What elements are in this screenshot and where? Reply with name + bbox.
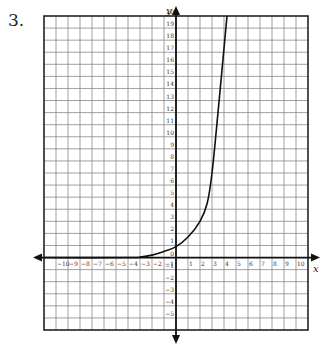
y-axis-down-arrow-icon bbox=[172, 335, 180, 344]
x-tick-label: −6 bbox=[105, 260, 114, 267]
x-tick-label: −2 bbox=[153, 260, 162, 267]
y-axis-label: y bbox=[165, 5, 172, 16]
y-tick-label: 9 bbox=[170, 141, 174, 148]
y-tick-label: −4 bbox=[165, 298, 174, 305]
y-tick-label: 4 bbox=[170, 201, 174, 208]
y-tick-label: 0 bbox=[170, 250, 174, 257]
y-tick-label: 14 bbox=[166, 80, 174, 87]
x-tick-label: −10 bbox=[57, 260, 70, 267]
x-tick-label: 2 bbox=[201, 260, 205, 267]
y-tick-label: 10 bbox=[166, 129, 174, 136]
x-tick-label: 9 bbox=[285, 260, 289, 267]
y-tick-label: 8 bbox=[170, 153, 174, 160]
x-tick-label: −5 bbox=[117, 260, 126, 267]
y-tick-label: −2 bbox=[165, 274, 174, 281]
x-tick-label: 10 bbox=[297, 260, 305, 267]
y-tick-label: 1 bbox=[170, 237, 174, 244]
y-tick-label: −5 bbox=[165, 310, 174, 317]
y-tick-label: −1 bbox=[165, 262, 174, 269]
x-tick-label: 3 bbox=[213, 260, 217, 267]
x-tick-label: −8 bbox=[81, 260, 90, 267]
x-axis-label: x bbox=[313, 263, 319, 274]
y-tick-label: 19 bbox=[166, 20, 174, 27]
y-tick-label: 18 bbox=[166, 32, 174, 39]
x-tick-label: 5 bbox=[237, 260, 241, 267]
x-tick-label: 8 bbox=[273, 260, 277, 267]
y-tick-label: 15 bbox=[166, 68, 174, 75]
y-tick-label: 13 bbox=[166, 93, 174, 100]
x-axis-right-arrow-icon bbox=[311, 254, 320, 262]
x-tick-label: 7 bbox=[261, 260, 265, 267]
x-tick-label: 4 bbox=[225, 260, 229, 267]
x-tick-label: −9 bbox=[69, 260, 78, 267]
tick-labels: −10−9−8−7−6−5−4−3−2−112345678910−5−4−3−2… bbox=[57, 8, 305, 317]
x-tick-label: −3 bbox=[141, 260, 150, 267]
y-tick-label: 6 bbox=[170, 177, 174, 184]
y-tick-label: 7 bbox=[170, 165, 174, 172]
axes bbox=[33, 6, 320, 344]
y-tick-label: 16 bbox=[166, 56, 174, 63]
x-tick-label: 6 bbox=[249, 260, 253, 267]
y-tick-label: 11 bbox=[166, 117, 174, 124]
y-tick-label: 5 bbox=[170, 189, 174, 196]
x-tick-label: 1 bbox=[189, 260, 193, 267]
y-tick-label: −3 bbox=[165, 286, 174, 293]
x-tick-label: −4 bbox=[129, 260, 138, 267]
x-axis-left-arrow-icon bbox=[33, 254, 42, 262]
coordinate-grid-chart: −10−9−8−7−6−5−4−3−2−112345678910−5−4−3−2… bbox=[0, 0, 328, 345]
y-tick-label: 3 bbox=[170, 213, 174, 220]
y-tick-label: 12 bbox=[166, 105, 174, 112]
y-tick-label: 2 bbox=[170, 225, 174, 232]
y-tick-label: 17 bbox=[166, 44, 174, 51]
x-tick-label: −7 bbox=[93, 260, 102, 267]
